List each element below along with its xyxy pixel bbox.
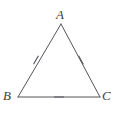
tick	[79, 56, 83, 64]
geometry-figure: A B C	[0, 0, 115, 116]
tick-mark-side-AC	[79, 56, 83, 64]
vertex-label-B: B	[3, 89, 11, 102]
side-AC	[61, 24, 100, 97]
vertex-label-C: C	[102, 89, 111, 102]
vertex-label-A: A	[56, 8, 64, 21]
tick-mark-side-AB	[34, 56, 39, 64]
tick	[34, 56, 39, 64]
side-AB	[18, 24, 61, 97]
